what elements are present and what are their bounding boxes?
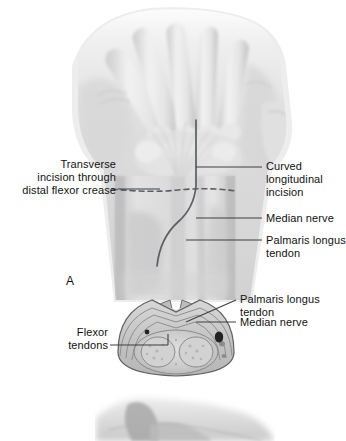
label-xsec-median-nerve: Median nerve bbox=[240, 316, 308, 329]
flexor-marker-spot bbox=[145, 330, 150, 335]
label-palmaris-longus-line-1: Palmaris longus bbox=[266, 234, 346, 247]
label-palmaris-longus-tendon: Palmaris longus tendon bbox=[266, 234, 346, 260]
label-median-nerve: Median nerve bbox=[266, 212, 334, 225]
median-nerve-spot bbox=[215, 331, 223, 342]
label-xsec-palmaris-longus-line-1: Palmaris longus bbox=[240, 293, 320, 306]
label-curved-incision-line-3: incision bbox=[266, 186, 323, 199]
label-curved-incision-line-2: longitudinal bbox=[266, 173, 323, 186]
label-curved-incision: Curved longitudinal incision bbox=[266, 160, 323, 199]
label-flexor-tendons-line-2: tendons bbox=[34, 339, 108, 352]
wrist-cross-section-illustration bbox=[110, 272, 246, 382]
palmar-hand-illustration bbox=[60, 0, 302, 310]
label-transverse-incision-line-2: incision through bbox=[8, 171, 116, 184]
label-palmaris-longus-line-2: tendon bbox=[266, 247, 346, 260]
panel-letter-a: A bbox=[66, 275, 74, 288]
label-median-nerve-line-1: Median nerve bbox=[266, 212, 334, 225]
label-xsec-median-nerve-line-1: Median nerve bbox=[240, 316, 308, 329]
label-flexor-tendons: Flexor tendons bbox=[34, 326, 108, 352]
label-transverse-incision-line-3: distal flexor crease bbox=[8, 184, 116, 197]
label-flexor-tendons-line-1: Flexor bbox=[34, 326, 108, 339]
label-transverse-incision: Transverse incision through distal flexo… bbox=[8, 158, 116, 197]
bottom-panel-cropped bbox=[96, 398, 274, 441]
label-curved-incision-line-1: Curved bbox=[266, 160, 323, 173]
label-transverse-incision-line-1: Transverse bbox=[8, 158, 116, 171]
